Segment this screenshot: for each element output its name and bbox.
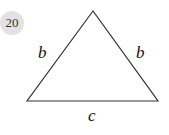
left-side-label: b <box>38 43 47 63</box>
base-label: c <box>88 106 96 126</box>
right-side-label: b <box>136 43 145 63</box>
triangle-figure <box>0 0 169 135</box>
